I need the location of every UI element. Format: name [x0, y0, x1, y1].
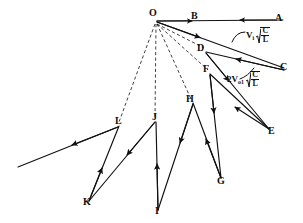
node-label-O: O [149, 8, 157, 18]
dashed-ray-O-L [119, 24, 155, 122]
annotation-vi-denominator: L [261, 35, 269, 44]
node-label-H: H [186, 94, 194, 104]
arrowhead-F-G [210, 75, 214, 113]
arrowhead-C-D [236, 59, 284, 70]
arrowhead-L-tail [72, 127, 118, 145]
annotation-2vo1-fraction: C L [251, 71, 259, 88]
annotation-vi-radical: C L [256, 27, 269, 44]
node-label-E: E [268, 126, 275, 136]
arrowhead-J-K [127, 122, 155, 155]
node-label-L: L [115, 116, 122, 126]
annotation-2vo1-subscript: o1 [238, 79, 244, 85]
node-label-B: B [191, 11, 198, 21]
node-label-I: I [155, 206, 159, 216]
node-label-J: J [152, 112, 157, 122]
dashed-ray-O-H [157, 24, 191, 99]
node-label-K: K [83, 197, 91, 207]
annotation-2vo1-denominator: L [251, 79, 259, 88]
node-label-D: D [197, 43, 204, 53]
annotation-vi-numerator: C [261, 27, 269, 35]
annotation-2vo1-numerator: C [251, 71, 259, 79]
annotation-vi-subscript: i [253, 35, 255, 41]
annotation-2vo1-radical: C L [246, 71, 259, 88]
arrowhead-H-I [180, 104, 193, 143]
node-label-G: G [217, 176, 225, 186]
arrowhead-D-E [206, 53, 229, 81]
arrowhead-E-F [235, 107, 269, 129]
leader-arc-vi [232, 32, 245, 42]
node-label-F: F [203, 64, 209, 74]
annotation-vi-fraction: C L [261, 27, 269, 44]
annotation-vi: Vi C L [246, 27, 269, 44]
node-label-A: A [275, 13, 282, 23]
arrowhead-I-J [157, 164, 158, 210]
annotation-2vo1: 2Vo1 C L [227, 71, 259, 88]
dashed-ray-O-J [155, 24, 156, 118]
node-label-C: C [280, 62, 287, 72]
top-axis-group [157, 20, 283, 21]
reflection-path-group [18, 22, 284, 210]
